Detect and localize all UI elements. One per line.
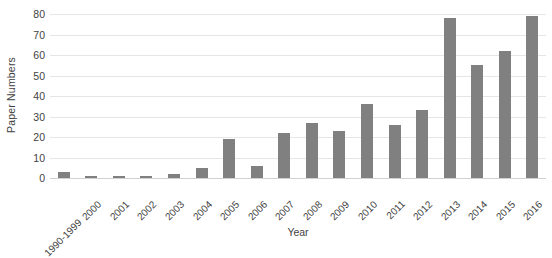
bar-slot [271,14,299,178]
bar-slot [215,14,243,178]
y-axis-tick-label: 0 [39,172,45,184]
x-axis-tick-slot: 2011 [381,179,409,225]
y-axis-title: Paper Numbers [0,0,22,190]
bar[interactable] [223,139,235,178]
bar-slot [105,14,133,178]
bar-slot [463,14,491,178]
x-axis-tick-slot: 2012 [408,179,436,225]
bar-slot [491,14,519,178]
x-axis-tick-slot: 2006 [243,179,271,225]
x-axis-tick-label: 2016 [537,183,552,207]
y-axis-tick-label: 70 [33,29,45,41]
bar[interactable] [306,123,318,178]
x-axis-tick-slot: 2002 [133,179,161,225]
x-axis-tick-slot: 2004 [188,179,216,225]
y-axis-tick-label: 10 [33,152,45,164]
x-axis-tick-slot: 2009 [326,179,354,225]
bar-slot [243,14,271,178]
bar[interactable] [113,176,125,178]
x-axis-tick-slot: 2003 [160,179,188,225]
y-axis-tick-label: 50 [33,70,45,82]
y-axis-tick-label: 20 [33,131,45,143]
bar[interactable] [471,65,483,178]
bar-slot [326,14,354,178]
y-axis-tick-label: 40 [33,90,45,102]
bar[interactable] [140,176,152,178]
bar[interactable] [196,168,208,178]
x-axis-tick-slot: 2008 [298,179,326,225]
x-axis-tick-slot: 2005 [215,179,243,225]
bar[interactable] [85,176,97,178]
bar-slot [133,14,161,178]
x-axis-tick-slot: 2015 [491,179,519,225]
bar[interactable] [58,172,70,178]
x-axis-title: Year [50,226,546,238]
bar-slot [408,14,436,178]
y-axis-title-label: Paper Numbers [5,57,17,133]
x-axis-tick-slot: 2001 [105,179,133,225]
bar-slot [298,14,326,178]
x-axis-tick-labels: 1990-19992000200120022003200420052006200… [50,179,546,225]
bar[interactable] [361,104,373,178]
bar-slot [519,14,547,178]
y-axis-tick-label: 30 [33,111,45,123]
bar-slot [50,14,78,178]
x-axis-tick-slot: 2007 [271,179,299,225]
x-axis-tick-slot: 2010 [353,179,381,225]
bar-slot [188,14,216,178]
y-axis-tick-label: 80 [33,8,45,20]
x-axis-tick-slot: 1990-1999 [50,179,78,225]
bar[interactable] [278,133,290,178]
plot-area [50,14,546,178]
bar-slot [78,14,106,178]
bar[interactable] [526,16,538,178]
bars-layer [50,14,546,178]
bar-slot [160,14,188,178]
y-axis-tick-labels: 01020304050607080 [22,14,48,178]
bar-slot [353,14,381,178]
x-axis-tick-slot: 2013 [436,179,464,225]
bar[interactable] [499,51,511,178]
bar[interactable] [333,131,345,178]
bar[interactable] [389,125,401,178]
bar[interactable] [444,18,456,178]
bar-slot [436,14,464,178]
y-axis-tick-label: 60 [33,49,45,61]
x-axis-tick-slot: 2000 [78,179,106,225]
bar-slot [381,14,409,178]
x-axis-tick-slot: 2014 [463,179,491,225]
bar[interactable] [416,110,428,178]
bar[interactable] [168,174,180,178]
bar[interactable] [251,166,263,178]
x-axis-tick-slot: 2016 [519,179,547,225]
